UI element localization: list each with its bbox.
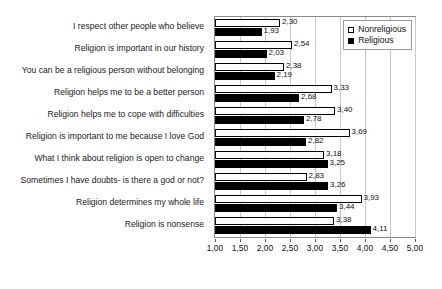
legend-label: Nonreligious [358,25,406,34]
category-label: Sometimes I have doubts- is there a god … [0,176,204,185]
data-label: 2,54 [294,40,310,48]
tick-label: 4,00 [357,244,373,253]
data-label: 3,93 [364,194,380,202]
data-label: 3,25 [330,159,346,167]
legend-item: Nonreligious [348,24,406,35]
legend-label: Religious [358,36,393,45]
bar-nonrel [215,217,334,225]
chart-title [0,0,442,9]
bar-rel [215,116,304,124]
bar-group: 3,384,11 [215,215,415,237]
category-label: Religion helps me to cope with difficult… [0,110,204,119]
bar-rel [215,94,299,102]
category-label: Religion helps me to be a better person [0,88,204,97]
tick-label: 5,00 [407,244,423,253]
tick-label: 4,50 [382,244,398,253]
tick-mark [415,239,416,242]
tick-label: 2,00 [257,244,273,253]
tick-label: 3,50 [332,244,348,253]
bar-rel [215,72,275,80]
tick-label: 1,50 [232,244,248,253]
tick-mark [340,239,341,242]
tick-label: 1,00 [207,244,223,253]
data-label: 2,30 [282,18,298,26]
bar-nonrel [215,63,284,71]
data-label: 2,82 [308,137,324,145]
data-label: 3,44 [339,203,355,211]
tick-label: 3,00 [307,244,323,253]
tick-mark [365,239,366,242]
bar-nonrel [215,151,324,159]
category-label: Religion is important to me because I lo… [0,132,204,141]
data-label: 2,03 [269,49,285,57]
hollow-square-icon [348,27,354,33]
category-label: Religion is nonsense [0,220,204,229]
bar-rel [215,138,306,146]
bar-group: 3,933,44 [215,193,415,215]
data-label: 3,33 [334,84,350,92]
bar-group: 3,402,78 [215,105,415,127]
bar-rel [215,204,337,212]
bar-rel [215,182,328,190]
tick-mark [215,239,216,242]
tick-label: 2,50 [282,244,298,253]
data-label: 1,93 [264,27,280,35]
data-label: 2,19 [277,71,293,79]
bar-rel [215,28,262,36]
bar-chart: I respect other people who believeReligi… [0,0,442,289]
gridline [415,17,416,237]
bar-group: 3,332,68 [215,83,415,105]
bar-group: 2,382,19 [215,61,415,83]
tick-mark [290,239,291,242]
category-label: I respect other people who believe [0,22,204,31]
tick-mark [265,239,266,242]
data-label: 2,83 [309,172,325,180]
data-label: 4,11 [373,225,388,233]
category-label: You can be a religious person without be… [0,66,204,75]
legend-item: Religious [348,35,406,46]
data-label: 3,40 [337,106,353,114]
data-label: 2,38 [286,62,302,70]
legend: NonreligiousReligious [343,20,412,50]
value-axis: 1,001,502,002,503,003,504,004,505,00 [214,239,416,261]
data-label: 3,69 [352,128,368,136]
data-label: 3,18 [326,150,342,158]
bar-rel [215,50,267,58]
bar-rel [215,160,328,168]
tick-mark [240,239,241,242]
filled-square-icon [348,38,354,44]
tick-mark [390,239,391,242]
bar-nonrel [215,173,307,181]
tick-mark [315,239,316,242]
bar-group: 3,692,82 [215,127,415,149]
category-axis-labels: I respect other people who believeReligi… [0,16,208,238]
category-label: What I think about religion is open to c… [0,154,204,163]
data-label: 2,78 [306,115,322,123]
category-label: Religion is important in our history [0,44,204,53]
data-label: 3,26 [330,181,346,189]
bar-group: 3,183,25 [215,149,415,171]
bar-nonrel [215,129,350,137]
category-label: Religion determines my whole life [0,198,204,207]
data-label: 2,68 [301,93,317,101]
bar-group: 2,833,26 [215,171,415,193]
bar-rel [215,226,371,234]
data-label: 3,38 [336,216,352,224]
plot-area: 2,301,932,542,032,382,193,332,683,402,78… [214,16,416,238]
